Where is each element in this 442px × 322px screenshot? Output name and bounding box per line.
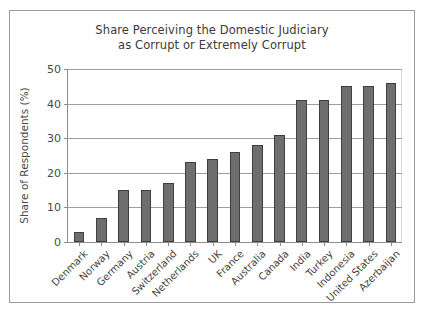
y-axis-tick-label: 50 (47, 63, 61, 76)
chart-title-line-1: Share Perceiving the Domestic Judiciary (10, 23, 414, 38)
x-axis-tick-mark (79, 242, 80, 246)
y-axis-tick-label: 20 (47, 166, 61, 179)
x-axis-tick-mark (280, 242, 281, 246)
bar (185, 162, 196, 242)
y-axis-tick-label: 30 (47, 132, 61, 145)
y-axis-tick-mark (64, 207, 68, 208)
bar (341, 86, 352, 242)
bar (386, 83, 397, 242)
x-axis-tick-mark (324, 242, 325, 246)
plot-area: 01020304050DenmarkNorwayGermanyAustriaSw… (67, 69, 402, 243)
bar (274, 135, 285, 242)
bar (141, 190, 152, 242)
x-axis-tick-mark (101, 242, 102, 246)
y-axis-tick-mark (64, 104, 68, 105)
x-axis-tick-mark (213, 242, 214, 246)
x-axis-tick-mark (302, 242, 303, 246)
y-axis-label: Share of Respondents (%) (18, 69, 32, 242)
chart-title-line-2: as Corrupt or Extremely Corrupt (10, 38, 414, 53)
gridline (68, 104, 402, 105)
x-axis-tick-label: UK (206, 248, 224, 266)
chart-figure: Share Perceiving the Domestic Judiciary … (9, 10, 415, 303)
x-axis-tick-mark (235, 242, 236, 246)
y-axis-tick-label: 0 (54, 236, 61, 249)
bar (230, 152, 241, 242)
bar (319, 100, 330, 242)
x-axis-tick-mark (369, 242, 370, 246)
bar (252, 145, 263, 242)
bar (363, 86, 374, 242)
bar (207, 159, 218, 242)
x-axis-tick-mark (346, 242, 347, 246)
y-axis-tick-label: 10 (47, 201, 61, 214)
bar (296, 100, 307, 242)
y-axis-tick-mark (64, 138, 68, 139)
x-axis-tick-mark (146, 242, 147, 246)
y-axis-tick-mark (64, 242, 68, 243)
y-axis-tick-mark (64, 69, 68, 70)
bar (163, 183, 174, 242)
bar (118, 190, 129, 242)
bar (74, 232, 85, 242)
chart-title: Share Perceiving the Domestic Judiciary … (10, 23, 414, 53)
gridline (68, 69, 402, 70)
y-axis-tick-label: 40 (47, 97, 61, 110)
bar (96, 218, 107, 242)
x-axis-tick-mark (168, 242, 169, 246)
y-axis-tick-mark (64, 173, 68, 174)
x-axis-tick-mark (391, 242, 392, 246)
x-axis-tick-mark (124, 242, 125, 246)
x-axis-tick-mark (190, 242, 191, 246)
gridline (68, 138, 402, 139)
x-axis-tick-mark (257, 242, 258, 246)
